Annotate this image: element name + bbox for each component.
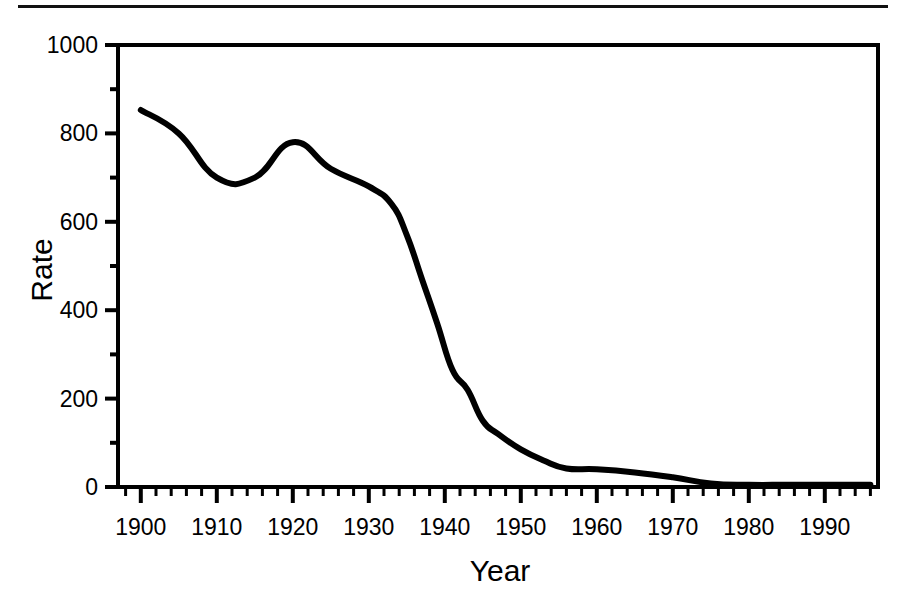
data-line: [141, 110, 871, 485]
x-tick-label: 1940: [419, 514, 470, 540]
y-tick-label: 400: [60, 297, 98, 323]
x-tick-label: 1960: [571, 514, 622, 540]
x-axis-title: Year: [470, 554, 531, 587]
plot-frame: [118, 45, 878, 487]
chart-svg: 02004006008001000 1900191019201930194019…: [0, 0, 912, 596]
y-axis-title: Rate: [25, 238, 58, 301]
figure-page: 02004006008001000 1900191019201930194019…: [0, 0, 912, 596]
y-tick-label: 1000: [47, 32, 98, 58]
y-tick-label: 200: [60, 386, 98, 412]
x-tick-label: 1980: [723, 514, 774, 540]
x-tick-label: 1930: [343, 514, 394, 540]
x-tick-label: 1910: [191, 514, 242, 540]
x-tick-label: 1900: [115, 514, 166, 540]
x-axis-major-ticks: [141, 487, 825, 503]
y-tick-label: 0: [85, 474, 98, 500]
x-axis-tick-labels: 1900191019201930194019501960197019801990: [115, 514, 850, 540]
y-tick-label: 800: [60, 120, 98, 146]
x-tick-label: 1920: [267, 514, 318, 540]
x-tick-label: 1970: [647, 514, 698, 540]
line-chart-figure: 02004006008001000 1900191019201930194019…: [0, 0, 912, 596]
x-tick-label: 1990: [799, 514, 850, 540]
x-tick-label: 1950: [495, 514, 546, 540]
y-tick-label: 600: [60, 209, 98, 235]
data-series-group: [141, 110, 871, 485]
